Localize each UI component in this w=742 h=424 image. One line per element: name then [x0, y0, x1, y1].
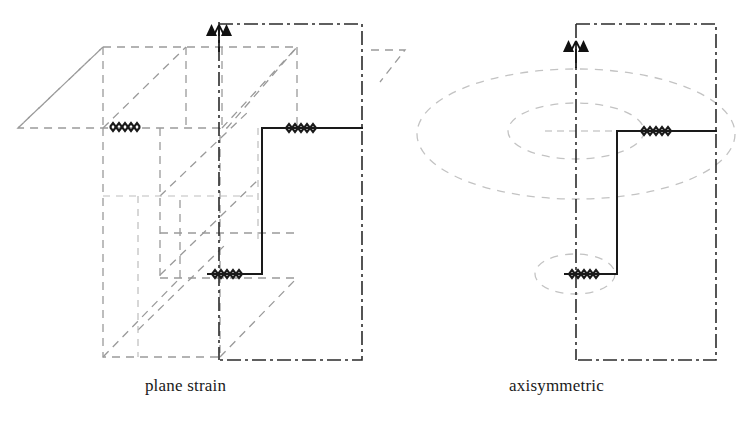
plane-strain-symmetry-marker [206, 24, 232, 52]
hatch-upper-left [110, 123, 140, 131]
panel-axisymmetric [371, 24, 735, 360]
axisymmetric-edge-fragment [371, 50, 405, 82]
lower-block-front-rectangle [103, 128, 220, 357]
slab-diagonal-left [18, 47, 103, 128]
boundary-rectangle [219, 24, 362, 360]
inner-diagonal-a [160, 110, 250, 196]
plane-strain-solid-profile [208, 128, 362, 274]
slab-diagonal-mid [103, 47, 186, 128]
inner-diagonal-c [138, 245, 225, 330]
lower-block-receding-edge-left [103, 278, 180, 357]
panel-plane-strain [18, 22, 362, 360]
lower-block-receding-edge-right [220, 278, 297, 357]
axisymmetric-axis-lines [576, 24, 716, 360]
plane-strain-hidden-geometry [18, 47, 297, 357]
plane-strain-axis-lines [219, 22, 362, 360]
stepped-section-outline [565, 131, 716, 274]
leftover-projection-fragment [371, 50, 405, 82]
caption-axisymmetric: axisymmetric [371, 376, 742, 396]
caption-plane-strain: plane strain [0, 376, 371, 396]
stepped-section-outline [208, 128, 362, 274]
diagram-canvas [0, 0, 742, 424]
axisymmetric-symmetry-marker [563, 40, 589, 68]
boundary-rectangle [576, 24, 716, 360]
technical-diagram-figure: plane strain axisymmetric [0, 0, 742, 424]
axisymmetric-solid-profile [565, 131, 716, 274]
axisymmetric-hatch-marks [569, 127, 671, 278]
